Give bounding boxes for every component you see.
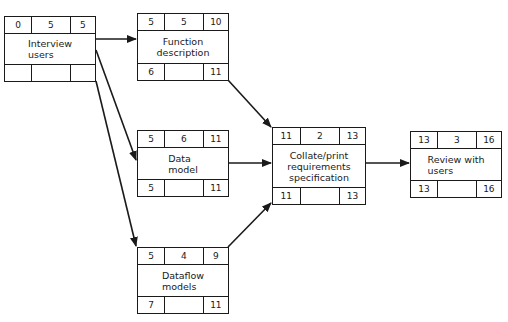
latest-finish: 11 (204, 180, 228, 196)
earliest-start: 0 (5, 17, 32, 33)
activity-label: Review with users (411, 149, 501, 180)
latest-finish: 13 (340, 188, 365, 204)
activity-node-interview-users: 0 5 5 Interview users (4, 16, 96, 82)
duration: 2 (301, 128, 341, 144)
earliest-finish: 11 (204, 131, 228, 147)
latest-finish (71, 65, 95, 81)
latest-finish: 16 (477, 181, 501, 197)
earliest-finish: 13 (340, 128, 365, 144)
earliest-finish: 16 (477, 132, 501, 148)
activity-node-dataflow-models: 5 4 9 Dataflow models 7 11 (137, 247, 229, 314)
earliest-start: 11 (273, 128, 301, 144)
earliest-finish: 10 (204, 14, 228, 30)
activity-label: Collate/print requirements specification (273, 145, 365, 187)
activity-node-review-with-users: 13 3 16 Review with users 13 16 (410, 131, 502, 198)
latest-finish: 11 (204, 64, 228, 80)
latest-start: 11 (273, 188, 301, 204)
earliest-start: 5 (138, 14, 165, 30)
activity-label: Function description (138, 31, 228, 63)
earliest-finish: 5 (71, 17, 95, 33)
activity-label: Dataflow models (138, 265, 228, 296)
activity-label: Data model (138, 148, 228, 179)
earliest-start: 5 (138, 248, 165, 264)
latest-start: 5 (138, 180, 165, 196)
float (301, 188, 341, 204)
earliest-finish: 9 (204, 248, 228, 264)
earliest-start: 5 (138, 131, 165, 147)
float (32, 65, 71, 81)
duration: 3 (438, 132, 477, 148)
latest-start: 7 (138, 297, 165, 313)
earliest-start: 13 (411, 132, 438, 148)
float (165, 180, 204, 196)
edge-dataflow-to-collate (228, 203, 271, 247)
activity-node-function-description: 5 5 10 Function description 6 11 (137, 13, 229, 81)
latest-finish: 11 (204, 297, 228, 313)
float (438, 181, 477, 197)
float (165, 297, 204, 313)
latest-start: 6 (138, 64, 165, 80)
activity-label: Interview users (5, 34, 95, 64)
float (165, 64, 204, 80)
latest-start: 13 (411, 181, 438, 197)
duration: 5 (32, 17, 71, 33)
duration: 6 (165, 131, 204, 147)
duration: 5 (165, 14, 204, 30)
latest-start (5, 65, 32, 81)
activity-node-collate-print-spec: 11 2 13 Collate/print requirements speci… (272, 127, 366, 205)
activity-node-data-model: 5 6 11 Data model 5 11 (137, 130, 229, 197)
duration: 4 (165, 248, 204, 264)
edge-function-to-collate (228, 80, 271, 127)
